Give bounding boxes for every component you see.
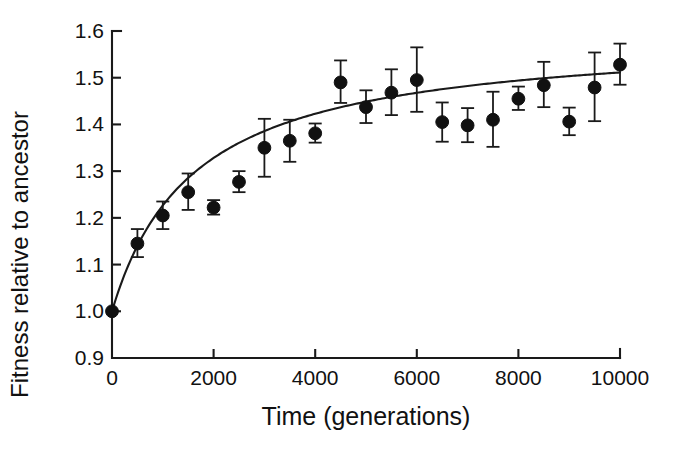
error-bars	[131, 44, 627, 257]
data-point	[334, 76, 347, 89]
figure-root: Fitness relative to ancestor 0.91.01.11.…	[0, 0, 675, 449]
data-point	[360, 101, 373, 114]
data-point	[563, 115, 576, 128]
data-point	[106, 305, 119, 318]
data-point	[614, 58, 627, 71]
data-point	[156, 209, 169, 222]
data-point	[588, 81, 601, 94]
data-point	[182, 186, 195, 199]
data-point	[436, 116, 449, 129]
tick-marks	[112, 78, 518, 358]
data-point	[233, 175, 246, 188]
data-point	[385, 86, 398, 99]
data-point	[512, 92, 525, 105]
data-point	[131, 237, 144, 250]
data-point	[207, 201, 220, 214]
data-point	[537, 79, 550, 92]
data-point	[258, 141, 271, 154]
data-point	[487, 113, 500, 126]
plot-area	[0, 0, 675, 449]
data-point	[461, 119, 474, 132]
data-point	[309, 127, 322, 140]
data-point	[410, 74, 423, 87]
data-point	[283, 134, 296, 147]
